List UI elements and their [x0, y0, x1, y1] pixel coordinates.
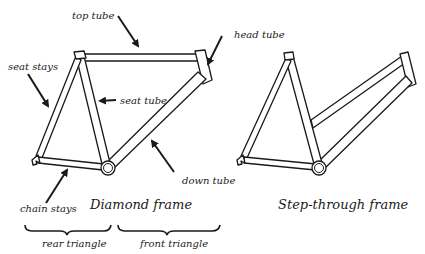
title-diamond-frame: Diamond frame — [89, 197, 192, 212]
top-tube-arrow — [118, 16, 138, 46]
step-chain-stays — [244, 157, 316, 170]
front-triangle-brace — [118, 225, 220, 235]
seat-tube — [76, 56, 110, 164]
label-rear-triangle: rear triangle — [42, 238, 107, 249]
step-through-frame-illustration — [237, 52, 416, 175]
chain-stays-arrow — [46, 170, 67, 203]
label-head-tube: head tube — [234, 29, 285, 40]
title-step-through-frame: Step-through frame — [278, 197, 408, 212]
label-down-tube: down tube — [182, 175, 235, 186]
label-seat-stays: seat stays — [8, 61, 58, 72]
head-tube-arrow — [208, 36, 222, 64]
down-tube — [106, 72, 206, 170]
step-seat-tube — [285, 56, 322, 164]
label-front-triangle: front triangle — [139, 238, 208, 249]
step-seat-cluster — [284, 52, 294, 60]
seat-cluster — [74, 51, 86, 59]
chain-stays — [38, 157, 104, 170]
top-tube — [80, 54, 198, 61]
label-top-tube: top tube — [72, 10, 114, 21]
step-seat-stays — [241, 58, 291, 158]
seat-stays-arrow — [28, 74, 48, 106]
label-chain-stays: chain stays — [20, 203, 77, 214]
label-seat-tube: seat tube — [120, 95, 167, 106]
diamond-frame-illustration — [32, 50, 212, 175]
seat-tube-arrow — [100, 100, 116, 101]
rear-triangle-brace — [25, 225, 111, 235]
down-tube-arrow — [152, 141, 174, 172]
bicycle-frame-diagram: top tube head tube seat stays seat tube … — [0, 0, 425, 254]
